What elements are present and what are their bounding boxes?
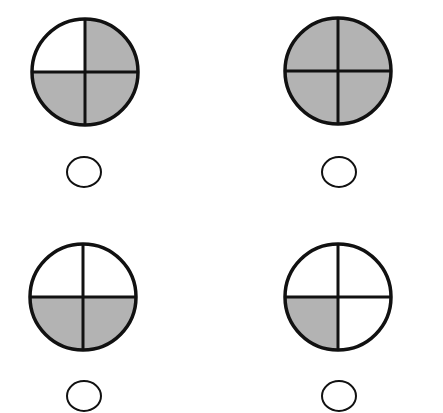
fraction-circle-top-right bbox=[285, 18, 391, 124]
answer-bubble-bottom-left[interactable] bbox=[67, 381, 101, 411]
fraction-circle-bottom-right bbox=[285, 244, 391, 350]
fraction-circle-top-left bbox=[32, 19, 138, 125]
answer-bubble-bottom-right[interactable] bbox=[322, 381, 356, 411]
answer-bubble-top-right[interactable] bbox=[322, 157, 356, 187]
fraction-circles-diagram bbox=[0, 0, 443, 413]
answer-bubble-top-left[interactable] bbox=[67, 157, 101, 187]
fraction-circle-bottom-left bbox=[30, 244, 136, 350]
